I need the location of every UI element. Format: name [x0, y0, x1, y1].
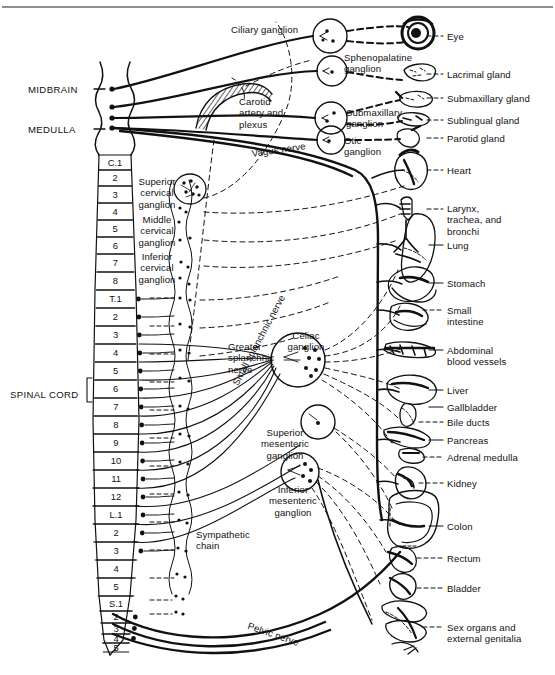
spinal-segment-label: 11 [89, 473, 143, 484]
spinal-segment-label: 5 [99, 642, 133, 653]
organ-label-larynx-trachea: Larynx, trachea, and bronchi [447, 203, 502, 237]
spinal-segment-label: 2 [90, 527, 143, 538]
organ-label-bile-ducts: Bile ducts [447, 417, 490, 428]
spinal-segment-label: 12 [89, 491, 143, 502]
gray-rami [150, 298, 174, 614]
spinal-segment-label: 6 [91, 383, 141, 394]
spinal-segment-label: 7 [90, 401, 141, 412]
ganglion-label-celiac: Celiac ganglion [275, 330, 337, 353]
ganglion-label-superior-cervical: Superior cervical ganglion [126, 176, 188, 210]
spinal-segment-label: S.1 [95, 598, 136, 609]
ganglion-label-sphenopalatine: Sphenopalatine ganglion [344, 52, 430, 75]
organ-label-sex-organs: Sex organs and external genitalia [447, 622, 521, 645]
adrenal-medulla-art [399, 448, 425, 463]
organ-label-submaxillary-gland: Submaxillary gland [447, 93, 530, 104]
organ-label-sublingual-gland: Sublingual gland [447, 115, 520, 126]
nerve-label-carotid-artery-plexus: Carotid artery and plexus [239, 96, 283, 130]
ganglion-label-middle-cervical: Middle cervical ganglion [126, 214, 188, 248]
organ-label-pancreas: Pancreas [447, 435, 488, 446]
gallbladder-art [400, 403, 416, 426]
organ-label-stomach: Stomach [447, 278, 486, 289]
stomach-art [388, 267, 436, 302]
organ-label-abdominal-vessels: Abdominal blood vessels [447, 345, 506, 368]
cranial-ganglion-circles [313, 19, 347, 154]
figure-canvas: C.12345678T.123456789101112L.12345S.1234… [0, 0, 555, 675]
organ-label-colon: Colon [447, 521, 473, 532]
abdominal-blood-vessels-art [384, 342, 435, 358]
carotid-ascending-dashed [246, 60, 312, 86]
spinal-segment-label: 5 [91, 365, 140, 376]
organ-label-bladder: Bladder [447, 583, 481, 594]
organ-label-kidney: Kidney [447, 478, 477, 489]
spinal-segment-label: 10 [89, 455, 142, 466]
cns-label-midbrain: MIDBRAIN [28, 84, 78, 95]
spinal-segment-label: 4 [91, 347, 139, 358]
ganglion-label-submaxillary: Submaxillary ganglion [346, 107, 426, 130]
ganglion-label-ciliary: Ciliary ganglion [231, 24, 327, 35]
spinal-segment-label: 8 [90, 419, 142, 430]
cranial-parasympathetic-fibers [114, 36, 317, 140]
spinal-segment-label: 4 [93, 563, 140, 574]
brainstem-origin-dots [109, 86, 114, 130]
spinal-segment-label: 3 [92, 329, 140, 340]
larynx-trachea-bronchi-art [394, 197, 418, 252]
spinal-segment-label: 5 [94, 581, 138, 592]
small-intestine-art [390, 303, 428, 330]
organ-label-eye: Eye [447, 31, 464, 42]
ganglion-label-otic: Otic ganglion [344, 135, 392, 158]
pelvic-nerve-art [113, 552, 400, 653]
organ-label-gallbladder: Gallbladder [447, 402, 497, 413]
bladder-art [390, 574, 416, 600]
spinal-segment-label: 2 [92, 311, 139, 322]
spinal-segment-label: C.1 [95, 157, 135, 168]
eye-art [402, 17, 434, 49]
spinal-segment-label: 3 [91, 545, 141, 556]
spinal-segment-label: L.1 [89, 509, 143, 520]
prevertebral-postganglionic [312, 270, 404, 620]
cns-label-spinal-cord: SPINAL CORD [10, 389, 79, 400]
brainstem-outline [95, 62, 135, 155]
organ-label-small-intestine: Small intestine [447, 305, 484, 328]
cns-label-medulla: MEDULLA [28, 124, 76, 135]
spinal-segment-label: T.1 [92, 293, 138, 304]
sex-organs-art [382, 601, 426, 654]
organ-label-liver: Liver [447, 385, 468, 396]
ganglion-label-inferior-cervical: Inferior cervical ganglion [126, 251, 188, 285]
organ-label-adrenal-medulla: Adrenal medulla [447, 452, 518, 463]
nerve-label-sympathetic-chain: Sympathetic chain [196, 529, 250, 552]
organ-label-heart: Heart [447, 165, 471, 176]
organ-label-rectum: Rectum [447, 553, 481, 564]
submaxillary-gland-art [396, 91, 432, 107]
organ-label-lacrimal-gland: Lacrimal gland [447, 69, 511, 80]
spinal-segment-label: 2 [97, 611, 136, 622]
spinal-segment-label: 9 [90, 437, 142, 448]
organ-label-parotid-gland: Parotid gland [447, 133, 505, 144]
ganglion-label-superior-mesenteric: Superior mesenteric ganglion [248, 427, 322, 461]
organ-label-lung: Lung [447, 240, 469, 251]
pancreas-art [384, 427, 430, 448]
ganglion-label-inferior-mesenteric: Inferior mesenteric ganglion [258, 484, 328, 518]
